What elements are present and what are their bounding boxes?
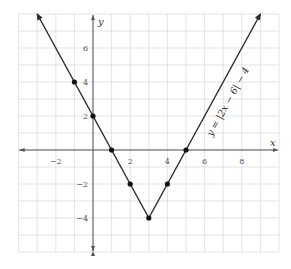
x-tick-label: 6	[202, 157, 207, 166]
data-point	[72, 79, 77, 84]
x-tick-label: 2	[128, 157, 133, 166]
y-tick-label: 4	[83, 78, 88, 87]
y-axis-label: y	[97, 16, 104, 27]
x-tick-label: −2	[50, 157, 62, 166]
y-tick-label: −4	[76, 214, 88, 223]
data-point	[183, 147, 188, 152]
data-point	[128, 181, 133, 186]
x-tick-label: 4	[165, 157, 170, 166]
y-tick-label: 6	[83, 44, 88, 53]
data-point	[165, 181, 170, 186]
y-tick-label: −2	[76, 180, 88, 189]
data-point	[109, 147, 114, 152]
x-axis-label: x	[270, 137, 276, 148]
x-tick-label: 8	[239, 157, 244, 166]
y-tick-label: 2	[83, 112, 88, 121]
data-point	[146, 215, 151, 220]
absolute-value-graph: −22468642−2−4 x y y = |2x − 6| − 4	[0, 0, 291, 269]
equation-label: y = |2x − 6| − 4	[204, 65, 252, 139]
data-point	[90, 113, 95, 118]
